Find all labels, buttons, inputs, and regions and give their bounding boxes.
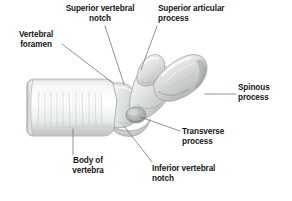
label-superior-vertebral-notch: Superior vertebral notch (52, 4, 148, 23)
label-body-of-vertebra: Body of vertebra (48, 156, 128, 175)
vertebra-anatomy-figure: Superior vertebral notchSuperior articul… (0, 0, 292, 201)
label-transverse-process: Transverse process (182, 127, 248, 146)
bone-transverse-process (126, 107, 146, 123)
label-inferior-vertebral-notch: Inferior vertebral notch (152, 164, 248, 183)
leader-vertebral-foramen (62, 44, 113, 83)
leader-superior-vertebral-notch (105, 26, 124, 84)
label-spinous-process: Spinous process (238, 83, 292, 102)
label-superior-articular-process: Superior articular process (158, 4, 254, 23)
bone-body-of-vertebra (27, 79, 117, 136)
label-vertebral-foramen: Vertebral foramen (4, 30, 68, 49)
